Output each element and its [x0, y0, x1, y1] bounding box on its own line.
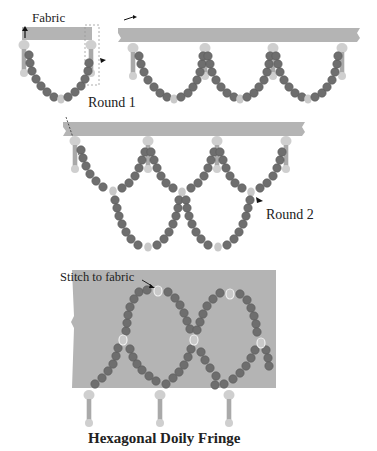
bead-loop — [25, 51, 93, 104]
panel-stitch-to-fabric: Stitch to fabric — [60, 270, 276, 427]
panel-first-loop: Fabric — [19, 10, 107, 104]
panel-round-1: Round 1 — [88, 15, 360, 110]
panel-round-2: Round 2 — [63, 117, 314, 252]
round-2-label: Round 2 — [266, 207, 314, 222]
arrow-head-icon — [133, 15, 137, 19]
arrow-icon — [256, 197, 263, 203]
fabric-label: Fabric — [32, 10, 65, 25]
round-1-label: Round 1 — [88, 95, 136, 110]
fabric-strip — [22, 27, 92, 40]
bead-round-2 — [111, 196, 254, 252]
arrow-icon — [100, 58, 106, 63]
bead-swags — [135, 52, 342, 104]
dangle-bead — [224, 390, 235, 427]
arrow-icon — [124, 17, 133, 20]
fabric-strip — [118, 28, 360, 42]
doily-fringe-diagram: Fabric Round 1 — [0, 0, 377, 451]
stitch-to-fabric-label: Stitch to fabric — [60, 270, 135, 284]
fabric-strip — [63, 122, 305, 136]
bead-round-1 — [77, 146, 286, 197]
diagram-title: Hexagonal Doily Fringe — [88, 430, 241, 446]
dangle-bead — [128, 43, 139, 80]
dangle-bead — [84, 390, 95, 427]
dangle-bead — [155, 390, 166, 427]
